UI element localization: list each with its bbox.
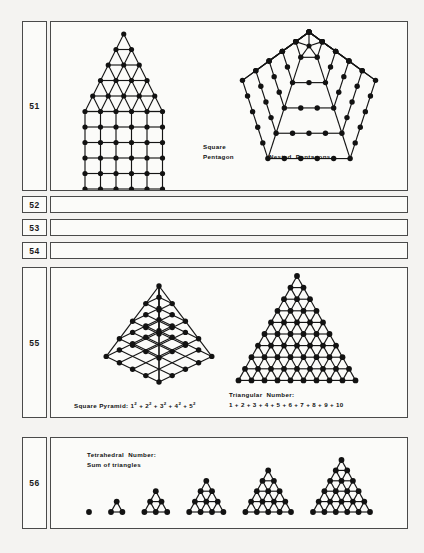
row-number-label: 52	[29, 200, 40, 210]
formula-term: 32	[160, 402, 167, 409]
table-row: 55 Square Pyramid: 12 + 22 + 32 + 42 + 5…	[22, 267, 408, 418]
row-number-label: 51	[29, 101, 40, 111]
formula-term: 52	[189, 402, 196, 409]
row-number-cell: 56	[22, 437, 47, 529]
square-pyramid-formula: Square Pyramid: 12 + 22 + 32 + 42 + 52	[74, 401, 196, 410]
row-number-label: 53	[29, 223, 40, 233]
row-number-cell: 54	[22, 242, 47, 259]
row-number-cell: 55	[22, 267, 47, 418]
nested-pentagons-caption: Nested Pentagons	[269, 153, 331, 161]
row-number-label: 55	[29, 338, 40, 348]
triangular-number-formula: 1 + 2 + 3 + 4 + 5 + 6 + 7 + 8 + 9 + 10	[229, 401, 344, 409]
figure-cell-empty	[50, 219, 408, 236]
formula-label: Square Pyramid:	[74, 402, 131, 409]
row-number-label: 56	[29, 478, 40, 488]
square-pentagon-caption: Square	[203, 143, 226, 151]
table-row: 53	[22, 219, 408, 236]
figure-cell: Tetrahedral Number: Sum of triangles	[50, 437, 408, 529]
row-number-cell: 53	[22, 219, 47, 236]
formula-plus: +	[167, 402, 175, 409]
table-row: 51 Square Pentagon Nested Pentagons	[22, 21, 408, 191]
figure-cell: Square Pyramid: 12 + 22 + 32 + 42 + 52 T…	[50, 267, 408, 418]
row-number-cell: 52	[22, 196, 47, 213]
formula-exponent: 2	[193, 401, 196, 406]
tetrahedral-number-caption: Tetrahedral Number:	[87, 451, 156, 459]
row-number-cell: 51	[22, 21, 47, 191]
table-row: 54	[22, 242, 408, 259]
worksheet-page: 51 Square Pentagon Nested Pentagons 52 5…	[0, 0, 424, 553]
tetrahedral-number-caption-2: Sum of triangles	[87, 461, 141, 469]
figure-cell-empty	[50, 196, 408, 213]
figure-cell-empty	[50, 242, 408, 259]
formula-plus: +	[152, 402, 160, 409]
figure-canvas-51	[51, 22, 407, 188]
table-row: 56 Tetrahedral Number: Sum of triangles	[22, 437, 408, 529]
figure-cell: Square Pentagon Nested Pentagons	[50, 21, 408, 191]
table-row: 52	[22, 196, 408, 213]
formula-term: 22	[145, 402, 152, 409]
formula-plus: +	[137, 402, 145, 409]
square-pentagon-caption-2: Pentagon	[203, 153, 234, 161]
triangular-number-caption: Triangular Number:	[229, 391, 294, 399]
row-number-label: 54	[29, 246, 40, 256]
